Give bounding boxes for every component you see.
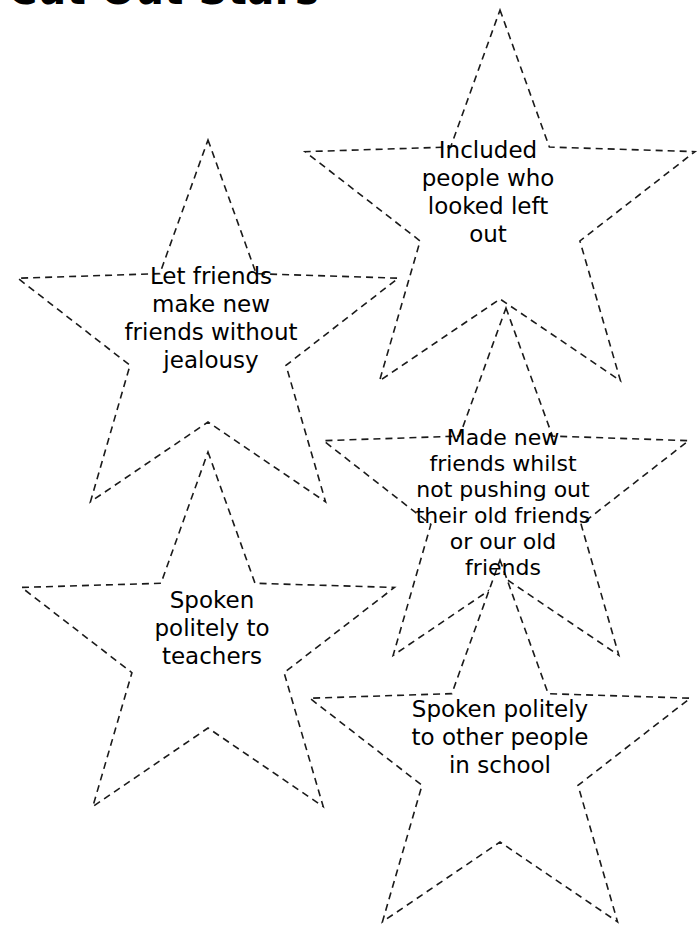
star-spoken-school [310, 560, 690, 922]
worksheet-page: Cut Out Stars Included people who looked… [0, 0, 699, 942]
star-spoken-teachers [22, 452, 395, 807]
stars-canvas [0, 0, 699, 942]
